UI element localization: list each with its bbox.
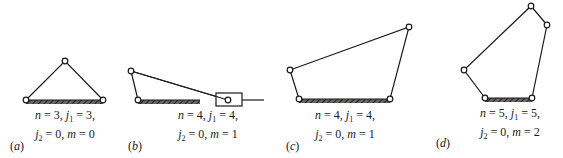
caption-d: n = 5, j1 = 5, j2 = 0, m = 2	[475, 106, 545, 145]
pin-joint-icon	[529, 95, 535, 101]
figure-label-a: (a)	[10, 139, 24, 154]
pin-joint-icon	[287, 67, 293, 73]
caption-a: n = 3, j1 = 3, j2 = 0, m = 0	[30, 108, 100, 147]
figure-label-d: (d)	[436, 136, 450, 151]
figure-a-linkage	[23, 58, 106, 104]
figure-d-linkage	[461, 3, 550, 102]
caption-c: n = 4, j1 = 4, j2 = 0, m = 1	[310, 108, 380, 147]
pin-joint-icon	[225, 97, 231, 103]
pin-joint-icon	[128, 68, 134, 74]
figure-c-linkage	[287, 24, 412, 103]
pin-joint-icon	[482, 95, 488, 101]
pin-joint-icon	[62, 58, 68, 64]
pin-joint-icon	[461, 67, 467, 73]
pin-joint-icon	[387, 96, 393, 102]
caption-b: n = 4, j1 = 4, j2 = 0, m = 1	[173, 108, 243, 147]
pin-joint-icon	[135, 97, 141, 103]
figure-label-c: (c)	[286, 139, 299, 154]
figure-b-linkage	[128, 68, 264, 106]
pin-joint-icon	[406, 24, 412, 30]
pin-joint-icon	[296, 96, 302, 102]
pin-joint-icon	[23, 97, 29, 103]
pin-joint-icon	[544, 22, 550, 28]
figure-label-b: (b)	[128, 139, 142, 154]
pin-joint-icon	[100, 97, 106, 103]
pin-joint-icon	[528, 3, 534, 9]
